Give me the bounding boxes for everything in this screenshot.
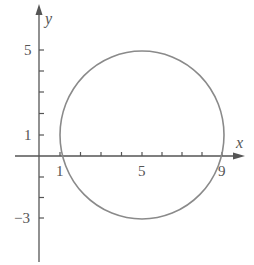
x-tick-label-1: 1 <box>56 163 64 179</box>
x-tick-label-5: 5 <box>138 163 146 179</box>
y-ticks <box>39 50 44 218</box>
y-axis-arrow-icon <box>36 4 43 15</box>
circle-graph: y x 1 5 9 5 1 −3 <box>0 0 254 265</box>
circle-curve <box>60 51 224 219</box>
y-axis-label: y <box>43 10 53 28</box>
x-axis-arrow-icon <box>233 153 245 160</box>
x-tick-label-9: 9 <box>218 163 226 179</box>
x-axis-label: x <box>235 134 243 151</box>
y-tick-label-5: 5 <box>24 42 32 58</box>
y-tick-label-1: 1 <box>24 127 32 143</box>
y-tick-label-neg3: −3 <box>14 210 30 226</box>
